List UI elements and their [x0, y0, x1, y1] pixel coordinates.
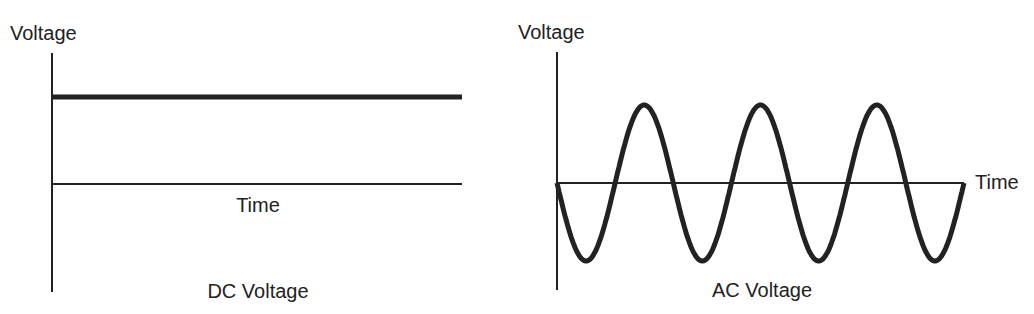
diagram-canvas [0, 0, 1034, 314]
ac-caption: AC Voltage [712, 280, 812, 300]
dc-x-axis-label: Time [236, 195, 280, 215]
dc-caption: DC Voltage [207, 281, 308, 301]
ac-graph [557, 52, 964, 290]
ac-y-axis-label: Voltage [518, 22, 585, 42]
dc-graph [52, 53, 462, 292]
dc-y-axis-label: Voltage [10, 23, 77, 43]
ac-x-axis-label: Time [975, 172, 1019, 192]
